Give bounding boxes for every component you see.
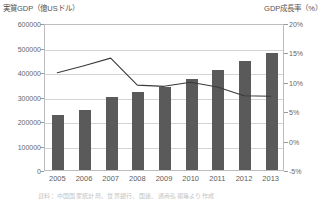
bar <box>266 53 278 170</box>
right-axis-tick-label: 15% <box>289 50 323 57</box>
right-axis-tick-mark <box>284 171 288 172</box>
right-axis-tick-mark <box>284 83 288 84</box>
left-axis-tick-label: 200000 <box>1 119 41 126</box>
left-axis-tick-label: 500000 <box>1 45 41 52</box>
bar <box>239 61 251 170</box>
left-axis-tick-mark <box>40 171 44 172</box>
bar <box>79 110 91 170</box>
bar <box>132 92 144 170</box>
left-axis-tick-label: 600000 <box>1 21 41 28</box>
right-axis-tick-mark <box>284 142 288 143</box>
bar <box>52 115 64 170</box>
right-axis-tick-label: 5% <box>289 109 323 116</box>
bar <box>106 97 118 170</box>
gridline <box>45 50 283 51</box>
right-axis-tick-label: 0% <box>289 138 323 145</box>
right-axis-tick-mark <box>284 24 288 25</box>
right-axis-tick-label: 20% <box>289 21 323 28</box>
left-axis-tick-label: 100000 <box>1 143 41 150</box>
left-axis-tick-label: 300000 <box>1 94 41 101</box>
right-axis-title: GDP成長率（%） <box>264 2 322 13</box>
bar <box>186 79 198 170</box>
source-note: 資料：中国国家統計局、世界銀行、国連、通商弘報等より作成 <box>38 191 214 200</box>
right-axis-tick-label: 10% <box>289 79 323 86</box>
plot-area <box>44 24 284 171</box>
left-axis-tick-label: 400000 <box>1 70 41 77</box>
right-axis-tick-label: -5% <box>289 168 323 175</box>
left-axis-tick-label: 0 <box>1 168 41 175</box>
right-axis-tick-mark <box>284 112 288 113</box>
left-axis-title: 実質GDP（億USドル） <box>3 2 79 13</box>
bar <box>159 87 171 170</box>
x-axis-tick-label: 2013 <box>255 174 287 183</box>
bar <box>212 70 224 170</box>
gdp-chart: 実質GDP（億USドル） GDP成長率（%） 01000002000003000… <box>0 0 326 201</box>
right-axis-tick-mark <box>284 53 288 54</box>
